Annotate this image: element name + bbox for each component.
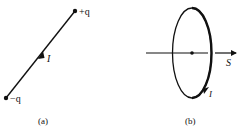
center-dot	[190, 51, 194, 55]
figure: +q −q I (a) S I (b)	[0, 0, 240, 131]
caption-a: (a)	[38, 116, 48, 126]
current-label: I	[46, 53, 51, 64]
panel-b: S I (b)	[146, 8, 236, 126]
figure-canvas: +q −q I (a) S I (b)	[0, 0, 240, 131]
negative-charge-dot	[4, 96, 8, 100]
panel-a: +q −q I (a)	[4, 6, 90, 126]
current-arrow-icon	[38, 51, 45, 59]
wire-line	[6, 11, 75, 98]
loop-current-label: I	[208, 89, 213, 99]
positive-charge-dot	[73, 9, 77, 13]
negative-charge-label: −q	[10, 93, 21, 104]
positive-charge-label: +q	[79, 6, 90, 17]
caption-b: (b)	[185, 116, 196, 126]
surface-vector-label: S	[226, 57, 231, 68]
